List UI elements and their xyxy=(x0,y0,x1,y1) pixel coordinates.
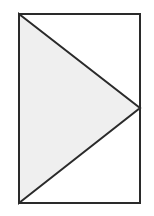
geometric-diagram xyxy=(0,0,154,216)
figure-container xyxy=(0,0,154,216)
